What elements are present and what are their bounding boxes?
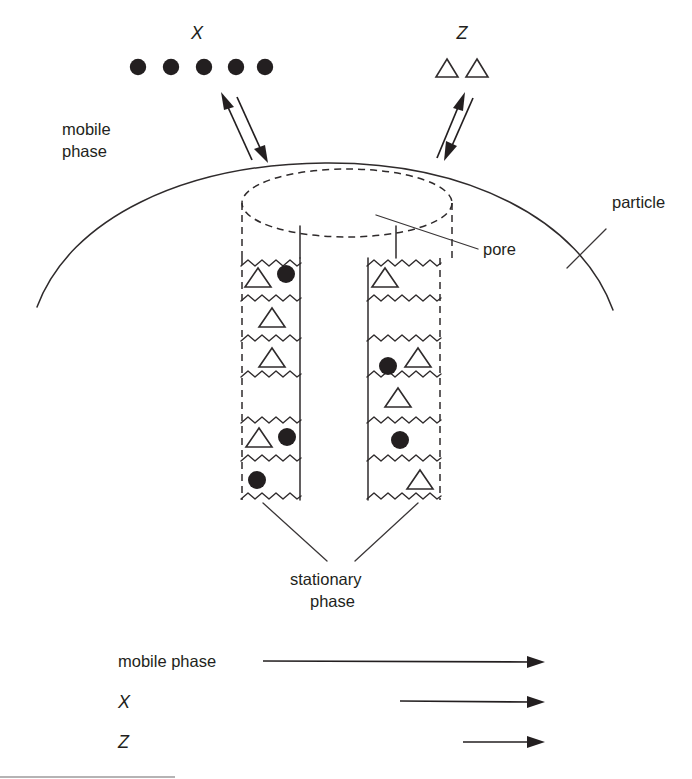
filled-circle-symbol [196, 59, 212, 75]
open-triangle-symbol [246, 428, 272, 447]
wavy-boundary [367, 295, 441, 301]
mobile-phase-line1: mobile [62, 120, 111, 138]
wavy-boundary [367, 455, 441, 461]
solute-z-group: Z [436, 23, 488, 77]
solute-x-label: X [190, 23, 204, 43]
filled-circle-symbol [248, 471, 266, 489]
arrow-head-down [254, 145, 268, 163]
wavy-boundary [241, 493, 301, 499]
solute-x-symbols [130, 59, 273, 75]
wavy-boundary [367, 260, 441, 266]
filled-circle-symbol [391, 431, 409, 449]
stationary-phase-line2: phase [310, 592, 355, 610]
pore-mouth-ellipse [242, 169, 452, 237]
legend-arrow-head [527, 656, 545, 668]
legend-arrow-head [527, 736, 545, 748]
open-triangle-symbol [259, 348, 285, 367]
solute-z-label: Z [456, 23, 469, 43]
wavy-boundary [367, 417, 441, 423]
solute-x-group: X [130, 23, 273, 75]
filled-circle-symbol [228, 59, 244, 75]
wavy-boundary [367, 371, 441, 377]
right-channel [367, 258, 441, 500]
wavy-boundary [367, 335, 441, 341]
mobile-phase-label: mobile phase [62, 120, 111, 160]
arrow-shaft-down [237, 97, 261, 150]
stationary-phase-line1: stationary [290, 570, 362, 588]
legend-arrow-head [527, 696, 545, 708]
filled-circle-symbol [277, 265, 295, 283]
pore-callout: pore [376, 215, 516, 258]
wavy-boundary [367, 493, 441, 499]
arrow-head-down [444, 141, 457, 161]
legend-label-mobile-phase: mobile phase [118, 652, 216, 670]
legend-label-x: X [117, 692, 131, 712]
x-exchange-equilibrium-arrows [221, 92, 268, 163]
open-triangle-symbol [407, 470, 433, 489]
legend-label-z: Z [117, 732, 130, 752]
arrow-head-up [453, 92, 465, 111]
wavy-boundary [241, 260, 301, 266]
legend-row-x: X [117, 692, 545, 712]
chromatography-diagram: X Z mobile phase [0, 0, 692, 779]
stationary-phase-callout: stationary phase [263, 503, 418, 610]
filled-circle-symbol [257, 59, 273, 75]
particle-label: particle [612, 193, 665, 211]
wavy-boundary [241, 455, 301, 461]
arrow-head-up [221, 92, 234, 110]
stationary-phase-leader-left [263, 503, 327, 561]
open-triangle-symbol [405, 348, 431, 367]
pore-cylinder [242, 169, 452, 258]
legend-arrow-shaft [263, 661, 531, 662]
filled-circle-symbol [130, 59, 146, 75]
wavy-boundary [241, 417, 301, 423]
open-triangle-symbol [372, 268, 398, 287]
z-exchange-equilibrium-arrows [437, 92, 473, 161]
wavy-boundary [241, 335, 301, 341]
legend-arrow-shaft [400, 701, 531, 702]
open-triangle-symbol [436, 59, 458, 77]
wavy-boundary [241, 295, 301, 301]
filled-circle-symbol [278, 428, 296, 446]
open-triangle-symbol [466, 59, 488, 77]
filled-circle-symbol [163, 59, 179, 75]
open-triangle-symbol [385, 388, 411, 407]
arrow-shaft-up [227, 105, 252, 160]
left-channel [241, 258, 301, 500]
solute-z-symbols [436, 59, 488, 77]
legend-row-mobile-phase: mobile phase [118, 652, 545, 670]
wavy-boundary [241, 371, 301, 377]
velocity-legend: mobile phase X Z [117, 652, 545, 752]
mobile-phase-line2: phase [62, 142, 107, 160]
open-triangle-symbol [259, 308, 285, 327]
legend-row-z: Z [117, 732, 545, 752]
pore-label: pore [483, 240, 516, 258]
stationary-phase-leader-right [355, 503, 418, 561]
filled-circle-symbol [379, 357, 397, 375]
figure-canvas: X Z mobile phase [0, 0, 692, 779]
pore-leader-line [376, 215, 478, 249]
open-triangle-symbol [245, 268, 271, 287]
